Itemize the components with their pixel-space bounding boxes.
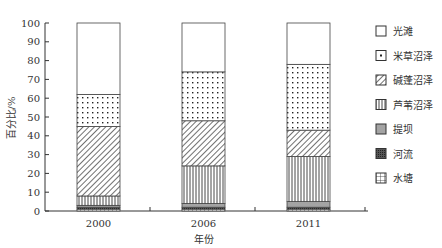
x-tick-label: 2000 xyxy=(86,218,111,229)
y-tick-label: 20 xyxy=(27,168,40,179)
bar-segment xyxy=(182,72,225,121)
bar-2006 xyxy=(182,23,225,211)
bar-segment xyxy=(182,23,225,72)
legend-item: 光滩 xyxy=(376,25,413,37)
y-tick-label: 40 xyxy=(27,130,40,141)
bar-segment xyxy=(182,203,225,207)
y-tick-label: 0 xyxy=(34,206,40,217)
bar-segment xyxy=(287,23,330,64)
bar-segment xyxy=(287,202,330,208)
y-tick-label: 100 xyxy=(21,18,40,29)
legend-swatch-icon xyxy=(376,124,386,134)
legend-item: 芦苇沼泽 xyxy=(376,99,433,111)
y-tick-label: 70 xyxy=(27,74,40,85)
bar-segment xyxy=(287,64,330,130)
y-tick-label: 50 xyxy=(27,112,40,123)
y-tick-label: 60 xyxy=(27,93,40,104)
legend-label: 水塘 xyxy=(393,172,413,184)
legend-swatch-icon xyxy=(376,173,386,183)
bars xyxy=(77,23,330,211)
legend-label: 碱蓬沼泽 xyxy=(393,74,433,86)
legend-swatch-icon xyxy=(376,26,386,36)
legend-label: 提坝 xyxy=(393,124,413,135)
legend-swatch-icon xyxy=(376,75,386,85)
legend-label: 米草沼泽 xyxy=(393,50,433,62)
bar-segment xyxy=(77,94,120,126)
y-tick-label: 90 xyxy=(27,36,40,47)
legend-item: 提坝 xyxy=(376,124,413,135)
y-axis-title: 百分比/% xyxy=(6,97,17,140)
bar-2011 xyxy=(287,23,330,211)
x-tick-label: 2011 xyxy=(296,218,321,229)
x-tick-label: 2006 xyxy=(191,218,216,229)
bar-2000 xyxy=(77,23,120,211)
stacked-bar-chart: 百分比/% 0102030405060708090100 20002006201… xyxy=(0,0,442,248)
y-axis: 0102030405060708090100 xyxy=(21,18,49,217)
bar-segment xyxy=(287,156,330,201)
legend-label: 芦苇沼泽 xyxy=(393,99,433,111)
legend-item: 碱蓬沼泽 xyxy=(376,74,433,86)
legend-label: 河流 xyxy=(393,148,413,160)
bar-segment xyxy=(77,126,120,196)
legend: 光滩米草沼泽碱蓬沼泽芦苇沼泽提坝河流水塘 xyxy=(376,25,433,184)
legend-item: 米草沼泽 xyxy=(376,50,433,62)
bar-segment xyxy=(77,23,120,94)
bar-segment xyxy=(77,196,120,205)
legend-item: 河流 xyxy=(376,148,413,160)
y-tick-label: 30 xyxy=(27,149,40,160)
bar-segment xyxy=(182,166,225,204)
bar-segment xyxy=(182,121,225,166)
legend-item: 水塘 xyxy=(376,172,413,184)
y-tick-label: 80 xyxy=(27,55,40,66)
x-axis-title: 年份 xyxy=(194,233,214,245)
y-tick-label: 10 xyxy=(27,187,40,198)
bar-segment xyxy=(287,130,330,156)
legend-label: 光滩 xyxy=(393,25,413,37)
legend-swatch-icon xyxy=(376,100,386,110)
legend-swatch-icon xyxy=(376,149,386,159)
